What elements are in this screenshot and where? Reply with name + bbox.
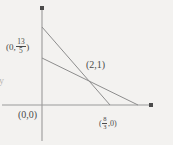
fraction-denominator: 5 [16,46,25,55]
label-x-intercept: (83,0) [99,116,117,131]
fraction-13-over-5: 135 [16,38,25,54]
x-axis-arrow-marker [149,103,153,107]
label-y-axis-name: y [0,76,4,86]
label-intersection-point: (2,1) [86,60,105,70]
fraction-8-over-3: 83 [102,116,107,131]
label-x-intercept-suffix: ,0) [108,120,117,128]
fraction-numerator: 8 [102,116,107,123]
label-y-intercept: (0,135) [6,38,29,54]
y-axis-arrow-marker [40,6,44,10]
label-y-intercept-prefix: (0, [6,43,16,52]
fraction-denominator: 3 [102,123,107,131]
plot-svg [0,0,173,145]
fraction-numerator: 13 [16,38,25,46]
graph-figure: (0,135) (2,1) (0,0) (83,0) y [0,0,173,145]
label-y-intercept-suffix: ) [26,43,29,52]
label-origin: (0,0) [18,110,37,120]
